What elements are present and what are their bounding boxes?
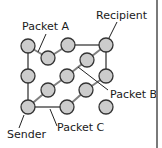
network-node [60, 69, 74, 83]
network-node [80, 53, 94, 67]
network-diagram: Packet A Recipient Packet B Sender Packe… [0, 0, 162, 148]
leader-sender [19, 115, 24, 128]
label-recipient: Recipient [96, 9, 148, 22]
label-packet-b: Packet B [110, 88, 157, 101]
leader-packet-a [38, 34, 46, 52]
network-node [99, 100, 113, 114]
label-sender: Sender [7, 128, 46, 141]
network-node [60, 100, 74, 114]
sender-node [21, 100, 35, 114]
network-node [99, 69, 113, 83]
network-node [41, 83, 55, 97]
network-node [79, 83, 93, 97]
leader-packet-c [50, 109, 57, 126]
network-node [41, 51, 55, 65]
recipient-node [99, 38, 113, 52]
label-packet-a: Packet A [22, 20, 69, 33]
diagram-svg: Packet A Recipient Packet B Sender Packe… [0, 0, 162, 148]
frame-border [156, 0, 158, 148]
network-node [21, 39, 35, 53]
leader-recipient [108, 22, 117, 40]
label-packet-c: Packet C [57, 121, 104, 134]
network-node [21, 69, 35, 83]
network-node [61, 38, 75, 52]
